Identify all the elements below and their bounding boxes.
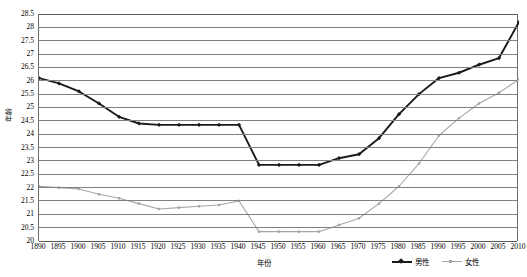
x-tick-label: 1955	[291, 243, 306, 251]
gridline	[39, 134, 517, 135]
x-tick-label: 1935	[211, 243, 226, 251]
y-tick-label: 24.5	[21, 117, 34, 125]
y-tick-label: 22	[27, 184, 35, 192]
x-tick-label: 1970	[351, 243, 366, 251]
gridline	[39, 174, 517, 175]
y-axis-tick-labels: 2020.52121.52222.52323.52424.52525.52626…	[0, 0, 36, 277]
gridline	[39, 160, 517, 161]
gridline	[39, 147, 517, 148]
x-tick-label: 2010	[511, 243, 526, 251]
y-tick-label: 21.5	[21, 197, 34, 205]
y-tick-label: 28	[27, 23, 35, 31]
legend: 男性 女性	[392, 256, 479, 267]
gridline	[39, 214, 517, 215]
x-axis-tick-labels: 1890189519001905191019151920192519301935…	[0, 243, 527, 257]
y-tick-label: 21	[27, 210, 35, 218]
x-tick-label: 1900	[71, 243, 86, 251]
x-tick-label: 1905	[91, 243, 106, 251]
gridline	[39, 94, 517, 95]
x-tick-label: 1985	[411, 243, 426, 251]
y-tick-label: 25	[27, 103, 35, 111]
x-tick-label: 1960	[311, 243, 326, 251]
y-tick-label: 22.5	[21, 170, 34, 178]
x-tick-label: 1890	[31, 243, 46, 251]
legend-label-female: 女性	[465, 256, 479, 267]
x-tick-label: 1920	[151, 243, 166, 251]
gridline	[39, 200, 517, 201]
y-tick-label: 25.5	[21, 90, 34, 98]
y-tick-label: 20.5	[21, 224, 34, 232]
x-tick-label: 1925	[171, 243, 186, 251]
x-tick-label: 1930	[191, 243, 206, 251]
y-tick-label: 26	[27, 77, 35, 85]
y-tick-label: 27.5	[21, 37, 34, 45]
gridline	[39, 14, 517, 15]
x-tick-label: 1940	[231, 243, 246, 251]
y-tick-label: 28.5	[21, 10, 34, 18]
gridline	[39, 40, 517, 41]
legend-line-female-icon	[442, 258, 462, 266]
y-tick-label: 26.5	[21, 63, 34, 71]
gridlines	[39, 14, 517, 241]
x-tick-label: 1950	[271, 243, 286, 251]
x-tick-label: 2005	[491, 243, 506, 251]
legend-line-male-icon	[392, 258, 412, 266]
gridline	[39, 120, 517, 121]
y-tick-label: 23	[27, 157, 35, 165]
gridline	[39, 107, 517, 108]
gridline	[39, 80, 517, 81]
x-tick-label: 1975	[371, 243, 386, 251]
x-tick-label: 1990	[431, 243, 446, 251]
legend-item-male: 男性	[392, 256, 429, 267]
x-tick-label: 2000	[471, 243, 486, 251]
gridline	[39, 27, 517, 28]
legend-item-female: 女性	[442, 256, 479, 267]
gridline	[39, 54, 517, 55]
x-tick-label: 1980	[391, 243, 406, 251]
gridline	[39, 227, 517, 228]
x-tick-label: 1965	[331, 243, 346, 251]
y-tick-label: 23.5	[21, 144, 34, 152]
chart-container: 年龄 2020.52121.52222.52323.52424.52525.52…	[0, 0, 527, 277]
x-tick-label: 1895	[51, 243, 66, 251]
x-tick-label: 1945	[251, 243, 266, 251]
x-tick-label: 1995	[451, 243, 466, 251]
x-tick-label: 1910	[111, 243, 126, 251]
x-tick-label: 1915	[131, 243, 146, 251]
data-point-marker	[518, 78, 519, 80]
legend-label-male: 男性	[415, 256, 429, 267]
y-tick-label: 24	[27, 130, 35, 138]
gridline	[39, 187, 517, 188]
y-tick-label: 27	[27, 50, 35, 58]
gridline	[39, 67, 517, 68]
plot-area	[38, 14, 518, 241]
